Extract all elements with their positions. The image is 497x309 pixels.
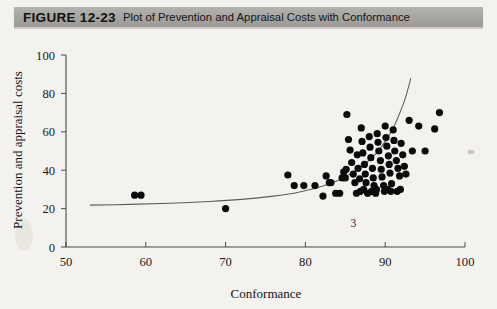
data-point	[366, 133, 373, 140]
data-point	[391, 147, 398, 154]
data-point	[382, 134, 389, 141]
data-point	[431, 125, 438, 132]
data-point	[409, 147, 416, 154]
data-point	[131, 192, 138, 199]
figure-caption: Plot of Prevention and Appraisal Costs w…	[123, 11, 410, 23]
data-point	[374, 139, 381, 146]
data-point	[137, 192, 144, 199]
data-point	[394, 165, 401, 172]
data-point	[422, 147, 429, 154]
x-tick-label: 70	[219, 255, 232, 269]
y-axis-title: Prevention and appraisal costs	[10, 71, 25, 229]
scan-speck	[468, 150, 475, 154]
data-point	[402, 170, 409, 177]
data-point	[374, 130, 381, 137]
data-point	[384, 186, 391, 193]
data-point	[396, 172, 403, 179]
x-axis-title: Conformance	[231, 286, 302, 301]
data-point	[291, 182, 298, 189]
x-axis-ticks	[66, 242, 465, 247]
data-point	[361, 161, 368, 168]
data-point	[406, 117, 413, 124]
x-tick-label: 80	[299, 255, 312, 269]
y-tick-label: 0	[49, 241, 55, 255]
data-point	[378, 173, 385, 180]
data-point	[360, 186, 367, 193]
data-point	[348, 159, 355, 166]
data-point	[367, 154, 374, 161]
y-axis-tick-labels: 020406080100	[36, 49, 55, 255]
data-point	[382, 122, 389, 129]
data-point	[336, 190, 343, 197]
y-tick-label: 40	[42, 164, 55, 178]
y-tick-label: 100	[36, 49, 55, 63]
data-point	[346, 146, 353, 153]
y-tick-label: 20	[42, 202, 55, 216]
data-point	[311, 182, 318, 189]
data-point	[436, 109, 443, 116]
x-tick-label: 50	[60, 255, 73, 269]
scatter-plot: 020406080100 5060708090100 3 Conformance…	[0, 30, 497, 309]
data-point	[370, 174, 377, 181]
data-point	[319, 193, 326, 200]
data-point	[345, 136, 352, 143]
plot-canvas: 020406080100 5060708090100 3 Conformance…	[0, 30, 497, 309]
data-point	[369, 165, 376, 172]
figure-title-bar: FIGURE 12-23 Plot of Prevention and Appr…	[14, 7, 483, 27]
data-point	[354, 165, 361, 172]
data-point	[390, 137, 397, 144]
data-point	[401, 163, 408, 170]
x-tick-label: 90	[379, 255, 392, 269]
data-point	[383, 143, 390, 150]
data-point	[378, 166, 385, 173]
annotation-group: 3	[350, 217, 356, 229]
data-point	[366, 144, 373, 151]
curve-index-label: 3	[350, 217, 356, 229]
data-point	[415, 122, 422, 129]
data-point	[393, 157, 400, 164]
data-point	[358, 124, 365, 131]
data-point	[397, 186, 404, 193]
data-point	[398, 140, 405, 147]
y-tick-label: 80	[42, 87, 55, 101]
y-axis-ticks	[61, 55, 66, 247]
data-point	[386, 161, 393, 168]
title-underline-rule	[14, 27, 483, 29]
data-point	[375, 147, 382, 154]
data-point	[327, 179, 334, 186]
data-point	[343, 166, 350, 173]
data-point	[390, 126, 397, 133]
figure-number-label: FIGURE 12-23	[23, 10, 116, 25]
data-point	[323, 172, 330, 179]
data-point	[373, 186, 380, 193]
data-point	[300, 182, 307, 189]
data-point	[362, 170, 369, 177]
data-point	[358, 138, 365, 145]
data-point	[362, 179, 369, 186]
x-tick-label: 60	[140, 255, 153, 269]
data-point	[399, 151, 406, 158]
data-point	[222, 205, 229, 212]
data-point	[350, 170, 357, 177]
y-tick-label: 60	[42, 125, 55, 139]
data-point-group	[131, 109, 443, 212]
data-point	[386, 169, 393, 176]
data-point	[284, 171, 291, 178]
data-point	[377, 157, 384, 164]
data-point	[356, 175, 363, 182]
data-point	[385, 152, 392, 159]
x-tick-label: 100	[456, 255, 475, 269]
data-point	[359, 149, 366, 156]
x-axis-tick-labels: 5060708090100	[60, 255, 475, 269]
data-point	[343, 111, 350, 118]
figure-root: FIGURE 12-23 Plot of Prevention and Appr…	[0, 0, 497, 309]
